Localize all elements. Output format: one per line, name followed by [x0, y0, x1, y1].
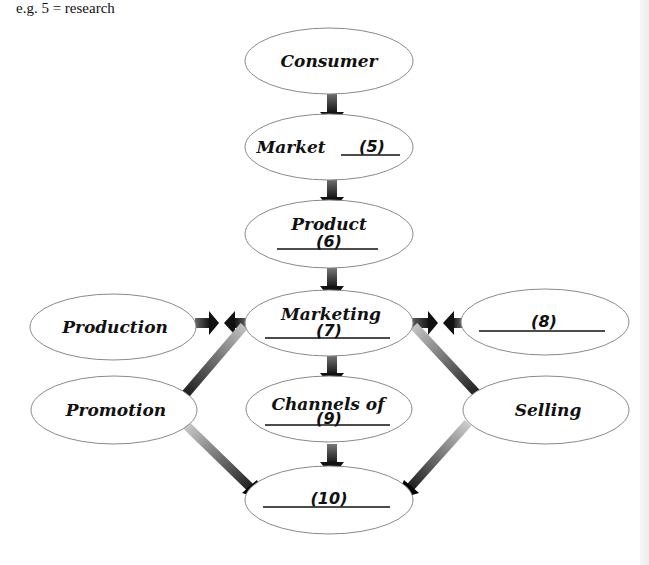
blank-6-number: (6): [316, 232, 342, 251]
node-channels: Channels of (9): [246, 376, 412, 442]
node-promotion: Promotion: [31, 376, 197, 444]
node-production-label: Production: [61, 317, 168, 337]
node-marketing: Marketing (7): [245, 290, 413, 356]
blank-7-number: (7): [316, 321, 342, 340]
node-promotion-label: Promotion: [65, 400, 166, 420]
arrow-eight-to-marketing: [443, 311, 462, 335]
blank-10-number: (10): [311, 489, 348, 508]
node-eight: (8): [461, 289, 629, 355]
node-production: Production: [30, 294, 196, 360]
node-market-label: Market: [255, 137, 325, 157]
node-market: Market (5): [245, 114, 413, 180]
node-consumer: Consumer: [245, 28, 413, 94]
marketing-flow-diagram: Consumer Market (5) Product (6) Marketin…: [0, 0, 649, 565]
blank-8-number: (8): [531, 312, 557, 331]
node-consumer-label: Consumer: [281, 51, 379, 71]
node-ten: (10): [245, 466, 413, 534]
arrow-production-to-marketing: [195, 311, 219, 335]
node-selling-label: Selling: [515, 400, 582, 420]
blank-5-number: (5): [359, 137, 385, 156]
node-selling: Selling: [463, 376, 629, 444]
node-product: Product (6): [245, 200, 413, 268]
node-product-label: Product: [290, 214, 367, 234]
